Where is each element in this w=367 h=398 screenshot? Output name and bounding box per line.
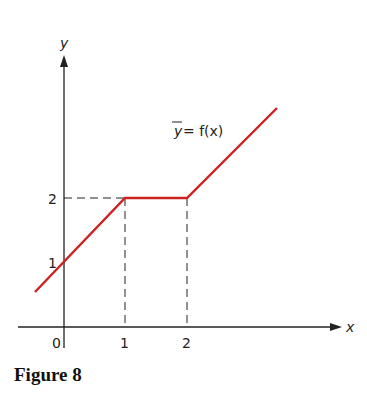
y-tick-1: 1 bbox=[48, 255, 57, 271]
curve-label-rest: = f(x) bbox=[183, 123, 223, 139]
x-tick-1: 1 bbox=[120, 335, 129, 351]
function-line bbox=[35, 108, 277, 292]
chart-canvas: 0 1 2 1 2 x y y = f(x) bbox=[0, 0, 367, 398]
x-tick-0: 0 bbox=[52, 335, 61, 351]
y-axis-label: y bbox=[59, 35, 69, 51]
x-axis-label: x bbox=[345, 319, 355, 335]
curve-label-y: y bbox=[173, 123, 183, 139]
y-tick-2: 2 bbox=[48, 191, 57, 207]
x-axis-arrow-icon bbox=[330, 323, 342, 331]
y-axis-arrow-icon bbox=[60, 55, 68, 67]
figure-caption: Figure 8 bbox=[14, 364, 82, 386]
x-tick-2: 2 bbox=[182, 335, 191, 351]
